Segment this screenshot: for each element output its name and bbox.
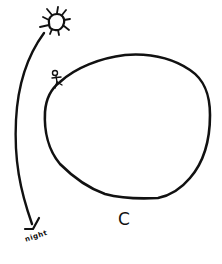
day-to-night-arrow <box>16 33 44 229</box>
planet-label: C <box>118 209 130 229</box>
sun-icon <box>40 7 70 35</box>
planet-blob <box>45 55 210 199</box>
